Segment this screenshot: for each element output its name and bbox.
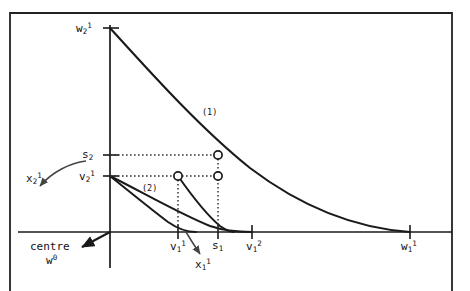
marker-s2-right xyxy=(214,151,222,159)
label-y-v2: v21 xyxy=(79,170,95,183)
label-centre: centre xyxy=(30,241,70,252)
marker-v2-mid xyxy=(174,172,182,180)
label-x-s1: s1 xyxy=(212,240,223,253)
label-axis-x1: x11 xyxy=(195,258,211,271)
label-x-v1-1: v11 xyxy=(170,240,186,253)
label-y-s2: s2 xyxy=(82,149,93,162)
label-x-v1-2: v12 xyxy=(246,240,262,253)
label-y-w2: w21 xyxy=(76,22,92,35)
diagram-canvas xyxy=(0,0,470,291)
label-x-w1-1: w11 xyxy=(401,240,417,253)
canvas-background xyxy=(0,0,470,291)
label-curve-1: (1) xyxy=(202,108,217,117)
label-w0: w0 xyxy=(46,254,57,266)
label-axis-x2: x21 xyxy=(26,172,42,185)
label-curve-2: (2) xyxy=(142,184,157,193)
marker-v2-right xyxy=(214,172,222,180)
